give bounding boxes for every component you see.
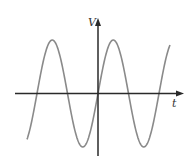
- voltage-axis-label: V: [88, 16, 97, 29]
- time-axis-label: t: [172, 97, 177, 110]
- sine-wave-figure: V t: [0, 0, 191, 158]
- time-axis-arrowhead-icon: [176, 91, 184, 97]
